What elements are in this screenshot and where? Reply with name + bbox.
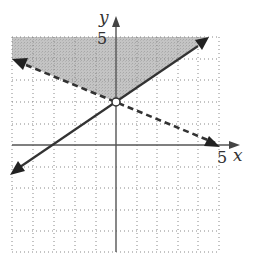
y-tick-label: 5 [97, 29, 107, 48]
x-axis-label: x [233, 145, 243, 165]
arrowhead-icon [10, 161, 25, 175]
open-circle-point [112, 98, 120, 106]
y-axis-label: y [98, 7, 109, 27]
y-axis-arrow-icon [112, 16, 120, 27]
shaded-region [12, 37, 209, 102]
x-tick-label: 5 [217, 148, 227, 167]
coordinate-plane: y 5 x 5 [0, 0, 256, 256]
arrowhead-icon [204, 136, 220, 147]
